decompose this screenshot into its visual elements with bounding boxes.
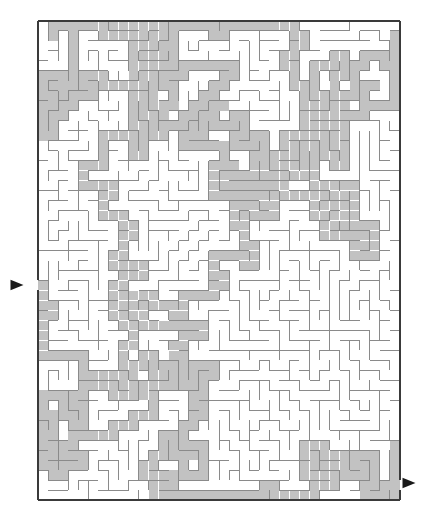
maze-canvas xyxy=(0,0,434,529)
maze-graphic xyxy=(0,0,434,529)
maze-page xyxy=(0,0,434,529)
